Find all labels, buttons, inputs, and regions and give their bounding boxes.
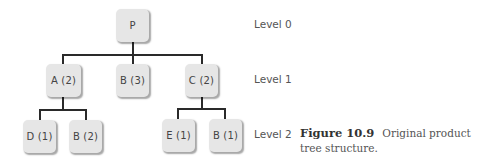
node-d: D (1) [23, 120, 56, 153]
node-b1: B (1) [209, 119, 242, 152]
connector-to-c [201, 54, 203, 64]
node-c: C (2) [185, 64, 218, 97]
node-e: E (1) [162, 119, 195, 152]
node-p: P [116, 9, 149, 42]
figure-number: Figure 10.9 [300, 126, 374, 140]
node-b2: B (2) [69, 120, 102, 153]
connector-to-e [177, 108, 179, 119]
connector-to-d [39, 109, 41, 120]
connector-to-a [62, 54, 64, 64]
level-0-label: Level 0 [254, 18, 292, 30]
connector-to-b2 [85, 109, 87, 120]
figure-caption: Figure 10.9Original product tree structu… [300, 126, 490, 156]
level-2-label: Level 2 [254, 128, 292, 140]
connector-to-b3 [132, 54, 134, 64]
node-b3: B (3) [116, 64, 149, 97]
connector-to-b1 [224, 108, 226, 119]
node-a: A (2) [46, 64, 81, 97]
level-1-label: Level 1 [254, 73, 292, 85]
connector-a-children-bar [39, 109, 86, 111]
connector-c-children-bar [177, 108, 225, 110]
